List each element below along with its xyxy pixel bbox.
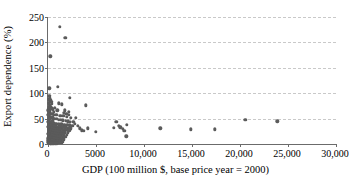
data-point bbox=[86, 127, 89, 130]
data-point bbox=[49, 54, 52, 57]
x-axis-tick-mark bbox=[144, 144, 145, 147]
data-point bbox=[125, 123, 128, 126]
gridline-horizontal bbox=[48, 17, 336, 18]
data-point bbox=[68, 96, 71, 99]
x-axis-tick-mark bbox=[336, 144, 337, 147]
x-axis-tick-label: 20,000 bbox=[225, 148, 253, 159]
x-axis-tick-mark bbox=[192, 144, 193, 147]
gridline-horizontal bbox=[48, 119, 336, 120]
data-point bbox=[159, 127, 162, 130]
y-axis-tick-mark bbox=[45, 42, 48, 43]
y-axis-tick-label: 100 bbox=[29, 88, 44, 99]
x-axis-tick-label: 10,000 bbox=[129, 148, 157, 159]
y-axis-tick-label: 200 bbox=[29, 37, 44, 48]
x-axis-tick-label: 5000 bbox=[85, 148, 105, 159]
scatter-chart: Export dependence (%) 050100150200250 GD… bbox=[0, 0, 351, 186]
x-axis-tick-mark bbox=[96, 144, 97, 147]
gridline-horizontal bbox=[48, 42, 336, 43]
data-point bbox=[213, 128, 216, 131]
data-point bbox=[56, 109, 59, 112]
y-axis-tick-labels: 050100150200250 bbox=[16, 0, 46, 186]
data-point bbox=[84, 104, 87, 107]
x-axis-tick-label: 30,000 bbox=[321, 148, 349, 159]
data-point bbox=[94, 130, 97, 133]
x-axis-tick-label: 25,000 bbox=[273, 148, 301, 159]
data-point bbox=[112, 126, 115, 129]
y-axis-tick-mark bbox=[45, 68, 48, 69]
gridline-horizontal bbox=[48, 68, 336, 69]
data-point bbox=[60, 103, 63, 106]
data-point bbox=[125, 135, 128, 138]
data-point bbox=[123, 129, 126, 132]
gridline-horizontal bbox=[48, 93, 336, 94]
x-axis-tick-label: 15,000 bbox=[177, 148, 205, 159]
data-point bbox=[114, 120, 117, 123]
x-axis-tick-label: 0 bbox=[45, 148, 50, 159]
y-axis-tick-label: 250 bbox=[29, 12, 44, 23]
x-axis-tick-mark bbox=[240, 144, 241, 147]
data-point bbox=[47, 86, 50, 89]
y-axis-tick-mark bbox=[45, 17, 48, 18]
plot-area bbox=[47, 17, 336, 145]
data-point bbox=[82, 129, 85, 132]
x-axis-title: GDP (100 million $, base price year = 20… bbox=[0, 164, 351, 175]
data-point bbox=[55, 113, 58, 116]
y-axis-tick-label: 50 bbox=[34, 113, 44, 124]
y-axis-tick-label: 150 bbox=[29, 62, 44, 73]
data-point bbox=[56, 85, 59, 88]
y-axis-title-wrapper: Export dependence (%) bbox=[0, 0, 16, 152]
data-point bbox=[60, 141, 63, 144]
y-axis-title: Export dependence (%) bbox=[3, 25, 14, 126]
data-point bbox=[276, 119, 279, 122]
data-point bbox=[189, 128, 192, 131]
data-point bbox=[244, 118, 247, 121]
x-axis-tick-mark bbox=[288, 144, 289, 147]
data-point bbox=[64, 36, 67, 39]
data-point bbox=[58, 25, 61, 28]
y-axis-tick-label: 0 bbox=[39, 139, 44, 150]
data-point bbox=[55, 142, 58, 145]
